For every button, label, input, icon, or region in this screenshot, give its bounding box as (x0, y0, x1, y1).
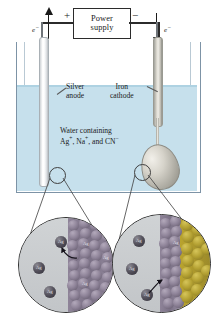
iron-atom (191, 284, 203, 296)
iron-cathode-label: Iron cathode (110, 83, 134, 101)
callout-ring-cathode (134, 164, 151, 181)
silver-anode-label: Silver anode (66, 83, 84, 101)
plating-atom (170, 216, 181, 227)
iron-atom (181, 291, 193, 303)
lattice-atom (82, 299, 93, 310)
lattice-atom (80, 288, 91, 299)
plating-atom (169, 236, 180, 247)
inset-right-solution-region (113, 215, 160, 312)
plating-atom (161, 248, 172, 259)
power-supply-label-line2: supply (91, 24, 114, 33)
plating-atom (159, 238, 170, 249)
plating-atom (171, 266, 182, 277)
solution-label-line1: Water containing (60, 126, 119, 135)
plating-atom (160, 258, 171, 269)
iron-atom (192, 224, 204, 236)
silver-ion (44, 286, 56, 298)
silver-ion (133, 235, 145, 247)
solution-label-line2: Ag+, Na+, and CN− (60, 135, 119, 146)
callout-ring-anode (49, 167, 66, 184)
plating-atom (171, 226, 182, 237)
iron-cathode-label-line2: cathode (110, 92, 134, 101)
silver-anode-rod (39, 37, 49, 187)
electron-label-right: e− (164, 24, 171, 34)
dissolution-arrow-icon (53, 242, 79, 260)
plating-atom (169, 276, 180, 287)
electron-flow-arrow-up-icon (48, 13, 49, 39)
silver-ion (33, 262, 45, 274)
electron-label-left: e− (32, 24, 39, 34)
power-supply-box: Power supply (73, 8, 131, 39)
negative-terminal-label: − (132, 10, 138, 21)
plating-atom (160, 218, 171, 229)
plating-atom (171, 246, 182, 257)
inset-iron-cathode-detail: Ag Ag Ag Ag (112, 214, 211, 313)
solution-composition-label: Water containing Ag+, Na+, and CN− (60, 126, 119, 146)
wire-left-horizontal (41, 22, 73, 24)
lattice-atom (71, 300, 82, 311)
iron-atom (201, 243, 211, 255)
iron-cathode-handle (153, 37, 163, 127)
silver-ion (126, 263, 138, 275)
iron-atom (201, 265, 211, 277)
inset-silver-anode-detail: Ag Ag Ag Ag Ag Ag (18, 217, 114, 313)
plating-atom (163, 298, 174, 309)
electroplating-diagram: Power supply + − e− e− Silver anode Iron… (0, 0, 215, 323)
lattice-atom (91, 290, 102, 301)
deposition-arrow-icon (146, 277, 168, 295)
silver-anode-label-line2: anode (66, 92, 84, 101)
plating-atom (171, 286, 182, 297)
positive-terminal-label: + (64, 10, 70, 21)
plating-atom (170, 256, 181, 267)
lattice-atom (100, 282, 111, 293)
